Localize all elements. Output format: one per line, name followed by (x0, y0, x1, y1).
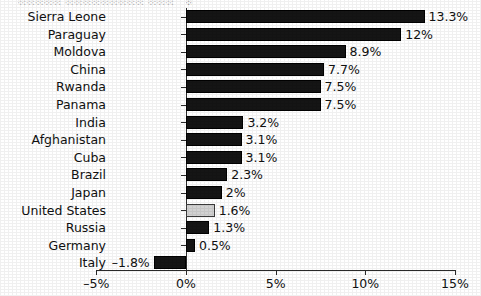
bar (186, 168, 227, 181)
category-label: Brazil (0, 166, 106, 184)
bar (186, 116, 243, 129)
bar (186, 10, 425, 23)
bar-value-label: 7.7% (328, 61, 360, 79)
bar-row: Russia1.3% (0, 219, 481, 237)
bar (186, 239, 195, 252)
category-label: Moldova (0, 43, 106, 61)
x-axis-tick-label: 10% (335, 276, 395, 291)
x-axis-tick-label: 5% (246, 276, 306, 291)
bar (186, 45, 346, 58)
category-label: Russia (0, 219, 106, 237)
bar-value-label: 7.5% (325, 78, 357, 96)
bar-value-label: –1.8% (0, 254, 150, 272)
category-label: Panama (0, 96, 106, 114)
bar (186, 63, 324, 76)
bar (186, 221, 209, 234)
bar-value-label: 3.2% (247, 114, 279, 132)
category-label: Afghanistan (0, 131, 106, 149)
bar-row: Cuba3.1% (0, 149, 481, 167)
bar (186, 98, 321, 111)
bar (186, 80, 321, 93)
bar-row: United States1.6% (0, 202, 481, 220)
bar-row: Rwanda7.5% (0, 78, 481, 96)
bar-value-label: 1.6% (219, 202, 251, 220)
bar-value-label: 2.3% (231, 166, 263, 184)
bar-chart: ░░░░░ ░░░░░░░░░ ░░░ ░ –5%0%5%10%15%Sierr… (0, 0, 481, 296)
bar-row: Moldova8.9% (0, 43, 481, 61)
bar-row: Germany0.5% (0, 237, 481, 255)
bar-value-label: 7.5% (325, 96, 357, 114)
bar-row: Italy–1.8% (0, 254, 481, 272)
bar-row: Brazil2.3% (0, 166, 481, 184)
bar (154, 256, 186, 269)
bar-value-label: 13.3% (429, 8, 469, 26)
bar (186, 151, 242, 164)
category-label: United States (0, 202, 106, 220)
bar-value-label: 3.1% (246, 149, 278, 167)
bar-value-label: 2% (226, 184, 246, 202)
bar (186, 204, 215, 217)
category-label: Japan (0, 184, 106, 202)
bar-row: Panama7.5% (0, 96, 481, 114)
bar-value-label: 12% (405, 26, 433, 44)
bar-row: Japan2% (0, 184, 481, 202)
category-label: Cuba (0, 149, 106, 167)
bar-row: Afghanistan3.1% (0, 131, 481, 149)
category-label: Paraguay (0, 26, 106, 44)
bar-value-label: 8.9% (350, 43, 382, 61)
bar (186, 28, 401, 41)
bar-row: India3.2% (0, 114, 481, 132)
bar-value-label: 0.5% (199, 237, 231, 255)
category-label: China (0, 61, 106, 79)
bar-value-label: 3.1% (246, 131, 278, 149)
bar-value-label: 1.3% (213, 219, 245, 237)
bar (186, 186, 222, 199)
category-label: Germany (0, 237, 106, 255)
category-label: India (0, 114, 106, 132)
category-label: Rwanda (0, 78, 106, 96)
bar-row: China7.7% (0, 61, 481, 79)
x-axis-tick-label: 15% (425, 276, 481, 291)
plot-area: –5%0%5%10%15%Sierra Leone13.3%Paraguay12… (0, 0, 481, 296)
x-axis-tick-label: 0% (156, 276, 216, 291)
bar-row: Sierra Leone13.3% (0, 8, 481, 26)
bar-row: Paraguay12% (0, 26, 481, 44)
category-label: Sierra Leone (0, 8, 106, 26)
bar (186, 133, 242, 146)
x-axis-tick-label: –5% (66, 276, 126, 291)
